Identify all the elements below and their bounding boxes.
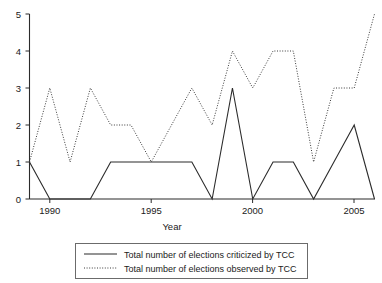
x-tick-label: 1995: [141, 205, 162, 216]
x-tick-label: 2005: [343, 205, 364, 216]
y-axis-ticks: [26, 14, 30, 199]
legend-label-observed: Total number of elections observed by TC…: [124, 264, 297, 274]
x-axis-tick-labels: 1990 1995 2000 2005: [39, 205, 364, 216]
y-tick-label: 0: [16, 194, 21, 205]
y-tick-label: 3: [16, 83, 21, 94]
x-axis-title: Year: [162, 221, 181, 232]
series-line-criticized: [30, 88, 375, 199]
chart-figure: 0 1 2 3 4 5 1990 1995 2000 2005 Year: [0, 0, 382, 283]
y-axis-tick-labels: 0 1 2 3 4 5: [16, 9, 21, 205]
x-axis-ticks: [50, 199, 354, 203]
y-tick-label: 2: [16, 120, 21, 131]
y-tick-label: 5: [16, 9, 21, 20]
legend-label-criticized: Total number of elections criticized by …: [124, 250, 295, 260]
line-chart-svg: 0 1 2 3 4 5 1990 1995 2000 2005 Year: [0, 0, 382, 283]
series-line-observed: [30, 14, 375, 162]
y-tick-label: 4: [16, 46, 21, 57]
y-tick-label: 1: [16, 157, 21, 168]
x-tick-label: 2000: [242, 205, 263, 216]
chart-legend: Total number of elections criticized by …: [76, 244, 308, 279]
x-tick-label: 1990: [39, 205, 60, 216]
